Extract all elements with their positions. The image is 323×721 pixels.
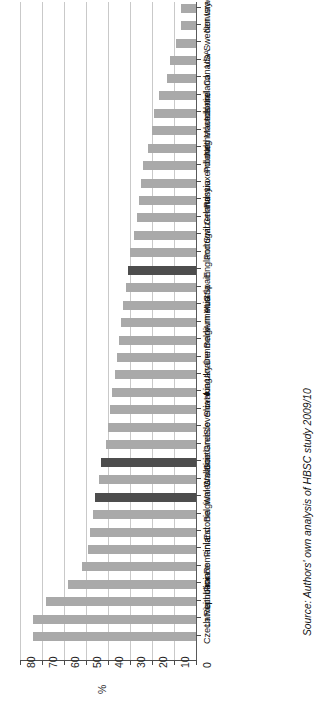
x-axis-tick [196, 660, 197, 665]
category-tick [196, 7, 201, 8]
gridline [64, 2, 65, 660]
bar [88, 545, 196, 554]
bar [101, 458, 196, 467]
bar [126, 283, 196, 292]
bar [176, 39, 196, 48]
category-tick [196, 164, 201, 165]
source-note: Source: Authors' own analysis of HBSC st… [302, 388, 313, 636]
bar [117, 353, 196, 362]
bar [139, 196, 196, 205]
category-label: Sweden [202, 18, 212, 51]
x-axis-tick [64, 660, 65, 665]
category-tick [196, 530, 201, 531]
bar [82, 562, 196, 571]
gridline [42, 2, 43, 660]
category-tick [196, 338, 201, 339]
bar [143, 161, 196, 170]
category-tick [196, 617, 201, 618]
x-axis-tick [86, 660, 87, 665]
bar [154, 109, 196, 118]
category-tick [196, 443, 201, 444]
bar [95, 493, 196, 502]
x-axis-tick-label: 40 [113, 638, 125, 668]
category-tick [196, 582, 201, 583]
x-axis-tick [108, 660, 109, 665]
x-axis-tick [42, 660, 43, 665]
category-tick [196, 41, 201, 42]
category-tick [196, 565, 201, 566]
category-tick [196, 76, 201, 77]
bar [170, 56, 196, 65]
category-tick [196, 635, 201, 636]
bar [121, 318, 196, 327]
gridline [174, 2, 175, 660]
bar [90, 528, 196, 537]
bar [159, 91, 196, 100]
category-tick [196, 373, 201, 374]
x-axis-tick [174, 660, 175, 665]
bar [119, 336, 196, 345]
bar [130, 248, 196, 257]
bar-chart: 80706050403020100 % IsraelNorwaySwedenUS… [0, 0, 323, 721]
category-tick [196, 59, 201, 60]
x-axis-tick [20, 660, 21, 665]
category-tick [196, 181, 201, 182]
x-axis-tick-label: 70 [47, 638, 59, 668]
x-axis-tick-label: 20 [157, 638, 169, 668]
bar [152, 126, 196, 135]
y-axis-line [196, 2, 197, 660]
bar [68, 580, 196, 589]
bar [99, 475, 196, 484]
bar [137, 213, 196, 222]
gridline [108, 2, 109, 660]
category-tick [196, 547, 201, 548]
category-tick [196, 233, 201, 234]
bar [128, 266, 196, 275]
category-tick [196, 198, 201, 199]
bar [112, 388, 196, 397]
gridline [20, 2, 21, 660]
category-tick [196, 146, 201, 147]
category-tick [196, 303, 201, 304]
x-axis-title: % [96, 685, 108, 694]
gridline [130, 2, 131, 660]
category-tick [196, 129, 201, 130]
category-tick [196, 251, 201, 252]
bar [33, 615, 196, 624]
category-tick [196, 268, 201, 269]
x-axis-tick [152, 660, 153, 665]
category-label: Czech Republic [202, 581, 212, 644]
bar [115, 370, 196, 379]
x-axis-tick-label: 80 [25, 638, 37, 668]
category-tick [196, 390, 201, 391]
bar [110, 405, 196, 414]
bar [46, 597, 196, 606]
x-axis-tick-label: 30 [135, 638, 147, 668]
category-tick [196, 24, 201, 25]
category-tick [196, 111, 201, 112]
x-axis-tick [130, 660, 131, 665]
category-tick [196, 216, 201, 217]
x-axis-tick-label: 10 [179, 638, 191, 668]
bar [141, 179, 196, 188]
gridline [86, 2, 87, 660]
bar [148, 144, 196, 153]
bar [167, 74, 196, 83]
category-tick [196, 425, 201, 426]
bar [134, 231, 196, 240]
category-tick [196, 356, 201, 357]
bar [106, 440, 196, 449]
category-tick [196, 460, 201, 461]
bar [93, 510, 196, 519]
category-tick [196, 321, 201, 322]
plot-area [20, 2, 196, 660]
category-tick [196, 513, 201, 514]
x-axis-tick-label: 60 [69, 638, 81, 668]
category-tick [196, 495, 201, 496]
category-tick [196, 94, 201, 95]
category-tick [196, 600, 201, 601]
bar [181, 21, 196, 30]
category-tick [196, 478, 201, 479]
bar [108, 423, 196, 432]
gridline [152, 2, 153, 660]
